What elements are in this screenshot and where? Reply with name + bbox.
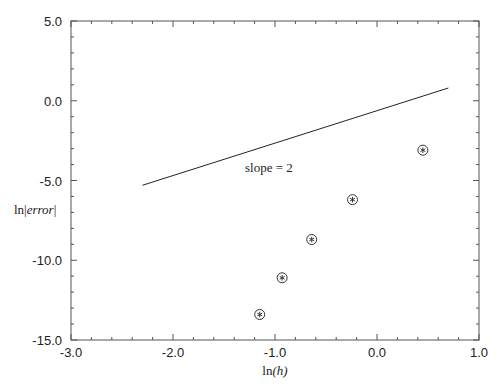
circled-asterisk-marker bbox=[307, 235, 317, 245]
x-tick-label: 0.0 bbox=[368, 345, 386, 360]
x-tick-labels: -3.0-2.0-1.00.01.0 bbox=[60, 345, 488, 360]
x-tick-label: -2.0 bbox=[162, 345, 184, 360]
y-tick-label: 5.0 bbox=[44, 14, 62, 29]
slope-line bbox=[142, 88, 448, 185]
axes-box bbox=[71, 21, 479, 340]
circled-asterisk-marker bbox=[418, 145, 428, 155]
slope-annotation: slope = 2 bbox=[245, 160, 293, 175]
y-axis-label: ln|error| bbox=[14, 202, 56, 217]
y-tick-label: -10.0 bbox=[32, 253, 62, 268]
x-axis-label: ln(h) bbox=[262, 363, 287, 378]
error-convergence-chart: -3.0-2.0-1.00.01.0 5.00.0-5.0-10.0-15.0 … bbox=[0, 0, 503, 389]
axis-ticks bbox=[71, 21, 479, 340]
x-tick-label: 1.0 bbox=[470, 345, 488, 360]
y-tick-label: -5.0 bbox=[40, 174, 62, 189]
chart-container: -3.0-2.0-1.00.01.0 5.00.0-5.0-10.0-15.0 … bbox=[0, 0, 503, 389]
x-axis-label-prefix: ln bbox=[262, 363, 273, 378]
circled-asterisk-marker bbox=[255, 309, 265, 319]
x-axis-label-close: ) bbox=[282, 363, 287, 378]
plot-frame bbox=[71, 21, 479, 340]
y-axis-label-prefix: ln| bbox=[14, 202, 27, 217]
y-axis-label-suffix: | bbox=[54, 202, 57, 217]
circled-asterisk-marker bbox=[348, 195, 358, 205]
reference-line-slope-2 bbox=[142, 88, 448, 185]
y-tick-labels: 5.00.0-5.0-10.0-15.0 bbox=[32, 14, 62, 348]
y-tick-label: -15.0 bbox=[32, 333, 62, 348]
x-tick-label: -1.0 bbox=[264, 345, 286, 360]
y-axis-label-var: error bbox=[27, 202, 55, 217]
circled-asterisk-marker bbox=[277, 273, 287, 283]
x-tick-label: -3.0 bbox=[60, 345, 82, 360]
y-tick-label: 0.0 bbox=[44, 94, 62, 109]
